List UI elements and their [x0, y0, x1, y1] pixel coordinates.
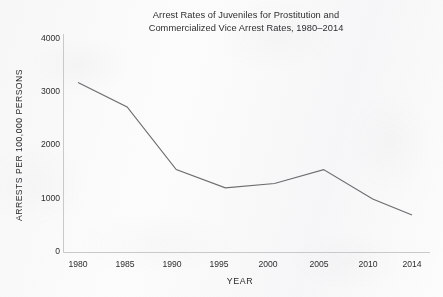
plot-area	[0, 0, 443, 297]
chart-figure: Arrest Rates of Juveniles for Prostituti…	[0, 0, 443, 297]
data-series-line	[78, 82, 412, 215]
